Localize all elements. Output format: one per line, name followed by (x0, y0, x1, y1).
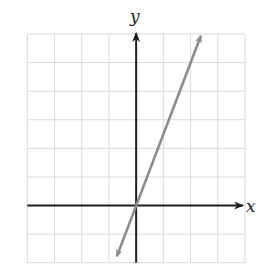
y-axis-label: y (129, 6, 140, 26)
x-axis-label: x (246, 196, 256, 216)
coordinate-plane: x y (0, 0, 262, 273)
plotted-line (117, 36, 201, 257)
